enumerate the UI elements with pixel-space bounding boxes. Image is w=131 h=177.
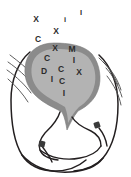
hatch-lines-right xyxy=(99,58,122,105)
vessel-tail-left xyxy=(42,146,52,162)
anatomical-figure: X i I X C X M C I D C X I C I xyxy=(0,0,131,177)
vessel-right-branch xyxy=(72,117,101,146)
marker-right-icon xyxy=(93,121,101,129)
vessel-lines-group xyxy=(39,112,107,162)
vessel-left-branch xyxy=(39,112,60,160)
torso-outline-bottom xyxy=(22,155,103,172)
figure-canvas xyxy=(0,0,131,177)
